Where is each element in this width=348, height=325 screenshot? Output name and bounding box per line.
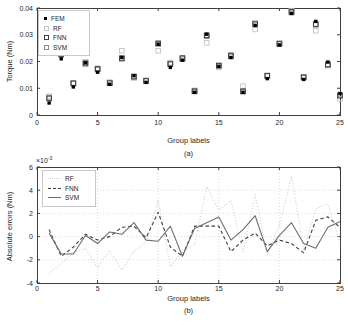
svg-text:0.01: 0.01: [19, 85, 33, 92]
figure: 051015202500.010.020.030.04 0510152025-4…: [0, 0, 348, 325]
svg-text:4: 4: [29, 187, 33, 194]
legend-label-rf: RF: [53, 25, 62, 32]
svg-text:2: 2: [29, 210, 33, 217]
svg-text:0.02: 0.02: [19, 58, 33, 65]
legend-errors-plot: RF FNN SVM: [42, 170, 96, 207]
svg-text:10: 10: [154, 285, 162, 292]
svg-text:25: 25: [336, 285, 344, 292]
svg-text:5: 5: [96, 285, 100, 292]
y-axis-label-torque: Torque (Nm): [5, 0, 14, 132]
exponent-power: -3: [48, 155, 52, 161]
fnn-dashed-line-icon: [48, 188, 61, 189]
legend-item-fnn: FNN: [44, 33, 67, 43]
x-axis-label-a: Group labels: [37, 136, 340, 145]
legend-item-svm: SVM: [44, 43, 67, 53]
svm-solid-line-icon: [48, 197, 61, 198]
rf-dotted-line-icon: [48, 178, 61, 179]
subplot-label-a: (a): [37, 149, 340, 158]
svg-text:5: 5: [96, 119, 100, 126]
y-axis-label-absolute-errors: Absolute errors (Nm): [5, 157, 14, 297]
legend-label-rf-line: RF: [65, 175, 74, 182]
svg-text:0: 0: [29, 112, 33, 119]
svg-text:15: 15: [215, 285, 223, 292]
svg-text:20: 20: [276, 285, 284, 292]
svg-text:20: 20: [276, 119, 284, 126]
fnn-open-square-icon: [44, 35, 49, 40]
svg-text:15: 15: [215, 119, 223, 126]
svg-text:0: 0: [29, 233, 33, 240]
subplot-label-b: (b): [37, 306, 340, 315]
legend-label-fnn: FNN: [53, 34, 66, 41]
svg-text:25: 25: [336, 119, 344, 126]
legend-item-svm-line: SVM: [48, 193, 79, 203]
fem-filled-square-icon: [44, 17, 47, 20]
y-axis-exponent-label: ×10-3: [36, 155, 52, 164]
svm-open-square-icon: [44, 45, 49, 50]
legend-label-svm: SVM: [53, 44, 67, 51]
svg-text:0.04: 0.04: [19, 5, 33, 12]
svg-text:10: 10: [154, 119, 162, 126]
svg-text:-2: -2: [27, 256, 33, 263]
legend-item-rf-line: RF: [48, 174, 79, 184]
rf-open-square-icon: [44, 26, 49, 31]
legend-item-rf: RF: [44, 24, 67, 34]
legend-label-fem: FEM: [51, 15, 65, 22]
exponent-base: ×10: [36, 157, 48, 164]
x-axis-label-b: Group labels: [37, 294, 340, 303]
legend-item-fem: FEM: [44, 14, 67, 24]
svg-text:6: 6: [29, 164, 33, 171]
svg-text:0.03: 0.03: [19, 31, 33, 38]
legend-label-svm-line: SVM: [65, 194, 79, 201]
legend-torque-plot: FEM RF FNN SVM: [38, 10, 90, 56]
svg-text:-4: -4: [27, 280, 33, 287]
legend-label-fnn-line: FNN: [65, 185, 78, 192]
svg-text:0: 0: [35, 119, 39, 126]
svg-text:0: 0: [35, 285, 39, 292]
legend-item-fnn-line: FNN: [48, 184, 79, 194]
